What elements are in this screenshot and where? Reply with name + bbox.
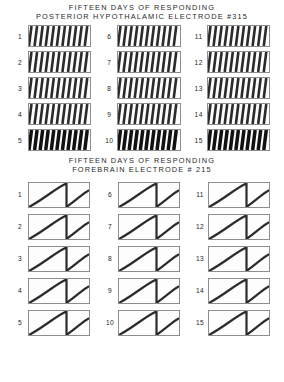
cumulative-record-trace xyxy=(28,25,91,47)
record-svg xyxy=(209,247,269,271)
record-cell: 14 xyxy=(193,103,270,125)
record-day-label: 12 xyxy=(193,59,207,66)
record-cell: 2 xyxy=(14,51,91,73)
record-day-label: 15 xyxy=(194,319,208,326)
record-cell: 10 xyxy=(103,129,180,151)
record-day-label: 2 xyxy=(14,223,28,230)
record-day-label: 11 xyxy=(193,33,207,40)
record-svg xyxy=(29,130,90,150)
record-svg xyxy=(29,215,89,239)
record-svg xyxy=(119,311,179,335)
record-day-label: 11 xyxy=(194,191,208,198)
cumulative-record-trace xyxy=(28,246,90,272)
cumulative-record-trace xyxy=(28,103,91,125)
record-cell: 8 xyxy=(104,246,180,272)
record-day-label: 14 xyxy=(194,287,208,294)
record-svg xyxy=(29,183,89,207)
record-day-label: 8 xyxy=(103,85,117,92)
record-cell: 6 xyxy=(103,25,180,47)
record-day-label: 13 xyxy=(194,255,208,262)
cumulative-record-trace xyxy=(118,278,180,304)
cumulative-record-trace xyxy=(118,246,180,272)
record-cell: 6 xyxy=(104,182,180,208)
panel-title-line-2: FOREBRAIN ELECTRODE # 215 xyxy=(0,166,284,175)
record-cell: 11 xyxy=(193,25,270,47)
record-svg xyxy=(119,247,179,271)
record-cell: 7 xyxy=(103,51,180,73)
figure-root: FIFTEEN DAYS OF RESPONDING POSTERIOR HYP… xyxy=(0,0,284,382)
cumulative-record-trace xyxy=(28,51,91,73)
record-svg xyxy=(208,104,269,124)
cumulative-record-trace xyxy=(117,51,180,73)
cumulative-record-trace xyxy=(207,51,270,73)
cumulative-record-trace xyxy=(207,129,270,151)
cumulative-record-trace xyxy=(208,310,270,336)
record-day-label: 13 xyxy=(193,85,207,92)
record-day-label: 3 xyxy=(14,255,28,262)
cumulative-record-trace xyxy=(208,182,270,208)
record-cell: 12 xyxy=(193,51,270,73)
record-day-label: 4 xyxy=(14,287,28,294)
record-cell: 9 xyxy=(104,278,180,304)
cumulative-record-trace xyxy=(28,278,90,304)
record-cell: 13 xyxy=(194,246,270,272)
cumulative-record-trace xyxy=(117,103,180,125)
record-svg xyxy=(118,26,179,46)
cumulative-record-trace xyxy=(28,129,91,151)
record-cell: 2 xyxy=(14,214,90,240)
panel-title-line-2: POSTERIOR HYPOTHALAMIC ELECTRODE #315 xyxy=(0,13,284,22)
record-day-label: 9 xyxy=(103,111,117,118)
record-svg xyxy=(29,279,89,303)
record-svg xyxy=(119,183,179,207)
cumulative-record-trace xyxy=(118,310,180,336)
record-day-label: 12 xyxy=(194,223,208,230)
record-day-label: 4 xyxy=(14,111,28,118)
record-svg xyxy=(118,52,179,72)
record-svg xyxy=(208,130,269,150)
cumulative-record-trace xyxy=(117,77,180,99)
cumulative-record-trace xyxy=(118,182,180,208)
record-cell: 12 xyxy=(194,214,270,240)
record-cell: 4 xyxy=(14,278,90,304)
cumulative-record-trace xyxy=(208,214,270,240)
record-day-label: 14 xyxy=(193,111,207,118)
record-day-label: 2 xyxy=(14,59,28,66)
cumulative-record-trace xyxy=(28,310,90,336)
record-cell: 11 xyxy=(194,182,270,208)
record-svg xyxy=(209,311,269,335)
cumulative-record-trace xyxy=(28,77,91,99)
record-grid-posterior: 161127123813491451015 xyxy=(0,25,284,151)
record-grid-forebrain: 161127123813491451015 xyxy=(0,182,284,336)
record-svg xyxy=(209,279,269,303)
record-svg xyxy=(118,78,179,98)
record-svg xyxy=(208,26,269,46)
record-svg xyxy=(118,104,179,124)
record-cell: 14 xyxy=(194,278,270,304)
record-day-label: 7 xyxy=(104,223,118,230)
record-svg xyxy=(209,215,269,239)
record-day-label: 9 xyxy=(104,287,118,294)
record-svg xyxy=(208,78,269,98)
record-cell: 3 xyxy=(14,246,90,272)
record-cell: 4 xyxy=(14,103,91,125)
record-cell: 9 xyxy=(103,103,180,125)
cumulative-record-trace xyxy=(207,77,270,99)
record-day-label: 1 xyxy=(14,191,28,198)
record-day-label: 6 xyxy=(103,33,117,40)
panel-title-forebrain: FIFTEEN DAYS OF RESPONDING FOREBRAIN ELE… xyxy=(0,151,284,181)
panel-title-posterior-hypothalamic: FIFTEEN DAYS OF RESPONDING POSTERIOR HYP… xyxy=(0,0,284,25)
panel-posterior-hypothalamic: FIFTEEN DAYS OF RESPONDING POSTERIOR HYP… xyxy=(0,0,284,151)
record-svg xyxy=(208,52,269,72)
record-day-label: 7 xyxy=(103,59,117,66)
record-svg xyxy=(119,215,179,239)
cumulative-record-trace xyxy=(28,214,90,240)
cumulative-record-trace xyxy=(117,129,180,151)
record-day-label: 15 xyxy=(193,137,207,144)
record-svg xyxy=(119,279,179,303)
record-svg xyxy=(118,130,179,150)
record-svg xyxy=(29,311,89,335)
record-svg xyxy=(29,52,90,72)
record-cell: 5 xyxy=(14,129,91,151)
record-day-label: 1 xyxy=(14,33,28,40)
record-day-label: 10 xyxy=(104,319,118,326)
